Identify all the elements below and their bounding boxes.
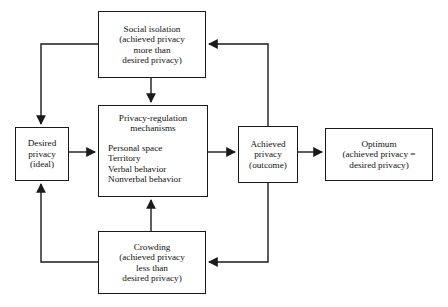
mechanism-item-personal-space: Personal space: [108, 143, 181, 153]
node-privacy-mechanisms-heading-line-1: Privacy-regulation: [99, 113, 207, 123]
node-privacy-mechanisms-list: Personal space Territory Verbal behavior…: [99, 143, 181, 185]
node-optimum-line-3: desired privacy): [349, 160, 408, 170]
node-achieved-privacy[interactable]: Achieved privacy (outcome): [238, 126, 298, 183]
edge-achieved-privacy-to-crowding: [209, 183, 268, 262]
node-social-isolation-line-4: desired privacy): [122, 55, 181, 65]
mechanism-item-territory: Territory: [108, 153, 181, 163]
node-crowding-line-1: Crowding: [134, 242, 171, 252]
node-optimum[interactable]: Optimum (achieved privacy = desired priv…: [325, 128, 433, 181]
node-social-isolation-line-3: more than: [134, 45, 171, 55]
node-privacy-regulation-mechanisms[interactable]: Privacy-regulation mechanisms Personal s…: [98, 105, 208, 197]
node-social-isolation-line-2: (achieved privacy: [119, 34, 185, 44]
node-desired-privacy-line-3: (ideal): [30, 159, 54, 169]
node-optimum-line-2: (achieved privacy =: [342, 149, 415, 159]
edge-achieved-privacy-to-social-isolation: [209, 44, 268, 126]
node-privacy-mechanisms-heading: Privacy-regulation mechanisms: [99, 113, 207, 134]
mechanism-item-nonverbal-behavior: Nonverbal behavior: [108, 174, 181, 184]
node-desired-privacy-line-2: privacy: [28, 149, 56, 159]
mechanism-item-verbal-behavior: Verbal behavior: [108, 164, 181, 174]
node-achieved-privacy-line-2: privacy: [254, 149, 282, 159]
node-crowding-line-4: desired privacy): [122, 273, 181, 283]
node-crowding-line-2: (achieved privacy: [119, 252, 185, 262]
node-desired-privacy-line-1: Desired: [28, 138, 57, 148]
node-desired-privacy[interactable]: Desired privacy (ideal): [15, 127, 69, 181]
node-achieved-privacy-line-3: (outcome): [249, 160, 287, 170]
privacy-regulation-diagram: Social isolation (achieved privacy more …: [0, 0, 448, 307]
node-crowding[interactable]: Crowding (achieved privacy less than des…: [98, 231, 206, 294]
node-social-isolation[interactable]: Social isolation (achieved privacy more …: [98, 11, 206, 78]
node-crowding-line-3: less than: [136, 263, 168, 273]
edge-social-isolation-to-desired-privacy: [41, 44, 98, 124]
node-social-isolation-line-1: Social isolation: [124, 24, 181, 34]
node-privacy-mechanisms-heading-line-2: mechanisms: [99, 123, 207, 133]
edge-crowding-to-desired-privacy: [41, 184, 98, 262]
node-achieved-privacy-line-1: Achieved: [250, 139, 285, 149]
node-optimum-line-1: Optimum: [361, 139, 396, 149]
